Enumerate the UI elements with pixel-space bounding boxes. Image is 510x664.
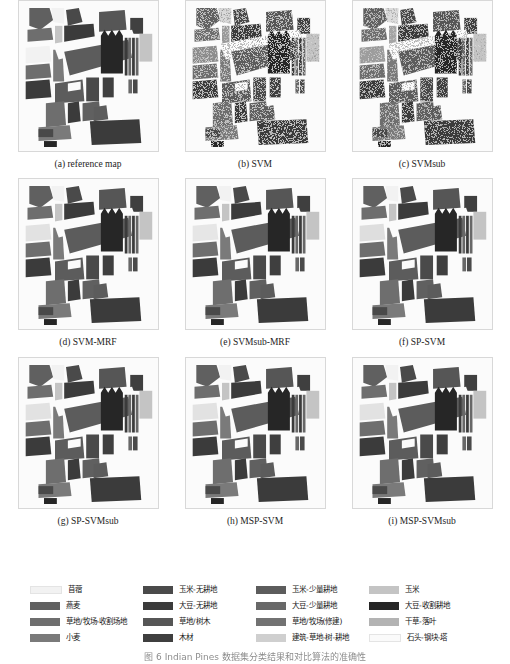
legend-label: 草地/牧场-收割场地: [66, 618, 127, 626]
legend-label: 草地/牧场(修建): [292, 618, 342, 626]
classification-map-b: [185, 0, 326, 152]
legend-label: 大豆-收割耕地: [405, 602, 450, 610]
legend-label: 干草-落叶: [405, 618, 436, 626]
class-legend: 苜蓿 玉米-无耕地 玉米-少量耕地 玉米 燕麦 大豆-无耕地 大豆-少量耕地 大…: [0, 582, 510, 646]
panel-cell-g: (g) SP-SVMsub: [14, 357, 162, 535]
panel-cell-i: (i) MSP-SVMsub: [348, 357, 496, 535]
legend-swatch-icon: [143, 586, 173, 594]
legend-label: 建筑-草地-树-耕地: [292, 634, 349, 642]
legend-swatch-icon: [256, 634, 286, 642]
legend-item: 小麦: [30, 630, 141, 646]
map-image-h: [189, 361, 322, 505]
legend-item: 苜蓿: [30, 582, 141, 598]
figure-caption: 图 6 Indian Pines 数据集分类结果和对比算法的准确性: [0, 650, 510, 664]
map-image-c: [356, 4, 489, 148]
legend-swatch-icon: [256, 586, 286, 594]
classification-map-d: [18, 178, 159, 330]
panel-caption-f: (f) SP-SVM: [399, 337, 445, 347]
legend-swatch-icon: [143, 618, 173, 626]
legend-swatch-icon: [30, 634, 60, 642]
legend-label: 玉米-无耕地: [179, 586, 217, 594]
legend-item: 玉米-少量耕地: [256, 582, 367, 598]
map-image-e: [189, 182, 322, 326]
classification-map-a: [18, 0, 159, 152]
panel-caption-d: (d) SVM-MRF: [59, 337, 116, 347]
legend-label: 玉米: [405, 586, 419, 594]
legend-item: 建筑-草地-树-耕地: [256, 630, 367, 646]
panel-caption-g: (g) SP-SVMsub: [58, 516, 119, 526]
legend-swatch-icon: [256, 602, 286, 610]
legend-swatch-icon: [369, 602, 399, 610]
panel-cell-e: (e) SVMsub-MRF: [181, 178, 329, 356]
legend-swatch-icon: [30, 586, 62, 594]
panel-caption-i: (i) MSP-SVMsub: [388, 516, 455, 526]
legend-label: 玉米-少量耕地: [292, 586, 337, 594]
legend-swatch-icon: [143, 634, 173, 642]
map-image-f: [356, 182, 489, 326]
panel-caption-e: (e) SVMsub-MRF: [220, 337, 290, 347]
classification-map-i: [352, 357, 493, 509]
panel-cell-a: (a) reference map: [14, 0, 162, 178]
classification-map-f: [352, 178, 493, 330]
legend-item: 草地/牧场-收割场地: [30, 614, 141, 630]
panel-cell-c: (c) SVMsub: [348, 0, 496, 178]
legend-swatch-icon: [30, 618, 60, 626]
panel-caption-c: (c) SVMsub: [399, 159, 446, 169]
legend-item: 玉米-无耕地: [143, 582, 254, 598]
panel-cell-d: (d) SVM-MRF: [14, 178, 162, 356]
panel-row-3: (g) SP-SVMsub: [0, 357, 510, 535]
legend-label: 大豆-无耕地: [179, 602, 217, 610]
panel-row-2: (d) SVM-MRF: [0, 178, 510, 356]
legend-item: 大豆-无耕地: [143, 598, 254, 614]
legend-label: 石头-钢块-塔: [407, 634, 447, 642]
legend-item: 大豆-收割耕地: [369, 598, 480, 614]
legend-grid: 苜蓿 玉米-无耕地 玉米-少量耕地 玉米 燕麦 大豆-无耕地 大豆-少量耕地 大…: [30, 582, 480, 646]
panel-cell-f: (f) SP-SVM: [348, 178, 496, 356]
legend-label: 苜蓿: [68, 586, 82, 594]
legend-swatch-icon: [369, 586, 399, 594]
panel-caption-a: (a) reference map: [55, 159, 122, 169]
map-image-b: [189, 4, 322, 148]
legend-item: 大豆-少量耕地: [256, 598, 367, 614]
panel-row-1: (a) reference map: [0, 0, 510, 178]
panel-grid: (a) reference map: [0, 0, 510, 535]
legend-swatch-icon: [256, 618, 286, 626]
legend-swatch-icon: [143, 602, 173, 610]
map-image-d: [22, 182, 155, 326]
panel-caption-h: (h) MSP-SVM: [227, 516, 283, 526]
legend-item: 草地/树木: [143, 614, 254, 630]
map-image-g: [22, 361, 155, 505]
legend-item: 木材: [143, 630, 254, 646]
legend-swatch-icon: [369, 634, 401, 642]
classification-map-e: [185, 178, 326, 330]
classification-map-g: [18, 357, 159, 509]
figure-container: (a) reference map: [0, 0, 510, 664]
legend-swatch-icon: [369, 618, 399, 626]
legend-item: 干草-落叶: [369, 614, 480, 630]
panel-caption-b: (b) SVM: [238, 159, 272, 169]
legend-label: 燕麦: [66, 602, 80, 610]
legend-item: 草地/牧场(修建): [256, 614, 367, 630]
legend-label: 草地/树木: [179, 618, 210, 626]
legend-label: 木材: [179, 634, 193, 642]
legend-label: 小麦: [66, 634, 80, 642]
legend-swatch-icon: [30, 602, 60, 610]
panel-cell-h: (h) MSP-SVM: [181, 357, 329, 535]
legend-item: 石头-钢块-塔: [369, 630, 480, 646]
map-image-i: [356, 361, 489, 505]
legend-item: 玉米: [369, 582, 480, 598]
panel-cell-b: (b) SVM: [181, 0, 329, 178]
legend-item: 燕麦: [30, 598, 141, 614]
classification-map-h: [185, 357, 326, 509]
classification-map-c: [352, 0, 493, 152]
map-image-a: [22, 4, 155, 148]
legend-label: 大豆-少量耕地: [292, 602, 337, 610]
